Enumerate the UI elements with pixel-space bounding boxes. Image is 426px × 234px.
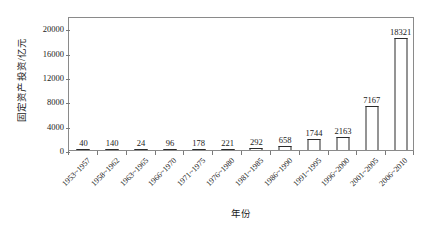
x-axis-tick-mark xyxy=(241,151,242,155)
bar-value-label: 2163 xyxy=(334,127,351,136)
bar xyxy=(163,149,176,151)
x-axis-tick-mark xyxy=(183,151,184,155)
x-axis-tick-mark xyxy=(413,151,414,155)
bar xyxy=(135,149,148,151)
bar-chart: 固定资产投资/亿元 040008000120001600020000 40140… xyxy=(0,0,426,234)
x-axis-tick-mark xyxy=(212,151,213,155)
bar xyxy=(77,149,90,151)
bar-value-label: 18321 xyxy=(390,28,411,37)
bar-value-label: 40 xyxy=(79,139,88,148)
bar xyxy=(279,146,292,150)
bar-slot: 96 xyxy=(156,18,185,150)
bar-slot: 140 xyxy=(98,18,127,150)
y-axis-tick-mark xyxy=(66,128,70,129)
bar-value-label: 292 xyxy=(250,138,263,147)
x-axis-tick-mark xyxy=(356,151,357,155)
x-axis-tick-mark xyxy=(328,151,329,155)
y-axis-tick-label: 4000 xyxy=(24,122,64,131)
y-axis-tick-mark xyxy=(66,30,70,31)
bar-slot: 292 xyxy=(242,18,271,150)
y-axis-tick-labels: 040008000120001600020000 xyxy=(24,17,64,151)
bar xyxy=(394,38,407,150)
bar-slot: 1744 xyxy=(300,18,329,150)
bar-value-label: 1744 xyxy=(306,129,323,138)
bar-value-label: 221 xyxy=(221,139,234,148)
y-axis-tick-label: 12000 xyxy=(24,74,64,83)
bar-value-label: 178 xyxy=(192,139,205,148)
y-axis-tick-label: 20000 xyxy=(24,25,64,34)
bar-slot: 7167 xyxy=(357,18,386,150)
bar-slot: 221 xyxy=(213,18,242,150)
y-axis-tick-label: 8000 xyxy=(24,98,64,107)
bar-value-label: 7167 xyxy=(363,96,380,105)
y-axis-tick-label: 0 xyxy=(24,147,64,156)
bars-container: 40140249617822129265817442163716718321 xyxy=(69,18,413,150)
bar-slot: 40 xyxy=(69,18,98,150)
bar-slot: 658 xyxy=(271,18,300,150)
y-axis-tick-mark xyxy=(66,103,70,104)
x-axis-title: 年份 xyxy=(68,208,414,220)
bar-slot: 18321 xyxy=(386,18,415,150)
bar xyxy=(106,149,119,151)
y-axis-tick-mark xyxy=(66,55,70,56)
x-axis-tick-mark xyxy=(155,151,156,155)
plot-area: 40140249617822129265817442163716718321 xyxy=(68,17,414,151)
bar-value-label: 96 xyxy=(166,139,175,148)
bar-slot: 2163 xyxy=(329,18,358,150)
bar-slot: 24 xyxy=(127,18,156,150)
y-axis-tick-mark xyxy=(66,79,70,80)
bar-value-label: 24 xyxy=(137,139,146,148)
bar xyxy=(192,149,205,151)
x-axis-category-labels: 1953~19571958~19621963~19651966~19701971… xyxy=(68,156,414,206)
x-axis-tick-mark xyxy=(97,151,98,155)
x-axis-tick-mark xyxy=(299,151,300,155)
x-axis-tick-mark xyxy=(68,151,69,155)
bar xyxy=(221,149,234,151)
x-axis-tick-mark xyxy=(270,151,271,155)
bar xyxy=(308,139,321,150)
bar xyxy=(336,137,349,150)
bar xyxy=(365,106,378,150)
bar xyxy=(250,148,263,150)
bar-value-label: 140 xyxy=(106,139,119,148)
x-axis-tick-mark xyxy=(126,151,127,155)
x-axis-tick-mark xyxy=(385,151,386,155)
y-axis-tick-label: 16000 xyxy=(24,49,64,58)
bar-value-label: 658 xyxy=(279,136,292,145)
bar-slot: 178 xyxy=(184,18,213,150)
